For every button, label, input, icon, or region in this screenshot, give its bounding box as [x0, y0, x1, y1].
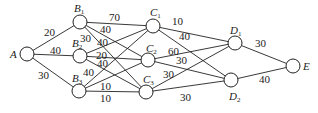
- node-e: [286, 59, 300, 73]
- edges-layer: [27, 22, 293, 92]
- node-b2: [73, 49, 87, 63]
- edge-weight-label: 40: [50, 44, 62, 56]
- nodes-layer: [20, 15, 300, 99]
- node-label-d1: D1: [229, 24, 242, 38]
- node-label-d2: D2: [228, 90, 241, 104]
- node-d1: [228, 36, 242, 50]
- edge-weight-label: 40: [97, 57, 109, 69]
- edge-c3-d1: [146, 43, 235, 92]
- node-label-c2: C2: [146, 42, 157, 56]
- edge-weight-label: 30: [38, 69, 50, 81]
- edge-weight-label: 10: [100, 80, 112, 92]
- edge-weight-label: 10: [100, 92, 112, 104]
- edge-b2-c2: [80, 56, 148, 60]
- edge-weight-label: 40: [179, 30, 191, 42]
- edge-weight-label: 70: [109, 11, 121, 23]
- edge-weight-label: 40: [83, 66, 95, 78]
- node-d2: [224, 73, 238, 87]
- node-label-b3: B3: [72, 72, 83, 86]
- edge-c2-d1: [148, 43, 235, 60]
- node-a: [20, 47, 34, 61]
- node-b3: [72, 84, 86, 98]
- edge-weight-label: 30: [176, 54, 188, 66]
- weighted-graph-diagram: 2040307040304020404010101040603030303040…: [0, 0, 318, 113]
- edge-weight-label: 40: [97, 36, 109, 48]
- edge-weight-label: 10: [172, 15, 184, 27]
- edge-weight-label: 30: [255, 37, 267, 49]
- edge-weight-label: 30: [163, 68, 175, 80]
- edge-weight-label: 40: [259, 73, 271, 85]
- node-label-a: A: [9, 48, 17, 60]
- edge-weight-label: 40: [100, 23, 112, 35]
- node-label-e: E: [302, 60, 310, 72]
- node-label-c3: C3: [143, 73, 154, 87]
- edge-weight-label: 20: [44, 26, 56, 38]
- node-c3: [139, 85, 153, 99]
- node-label-c1: C1: [150, 6, 161, 20]
- edge-b3-c3: [79, 91, 146, 92]
- node-b1: [73, 15, 87, 29]
- node-c1: [146, 19, 160, 33]
- edge-weight-label: 30: [180, 91, 192, 103]
- node-label-b1: B1: [74, 2, 85, 16]
- edge-c2-d2: [148, 60, 231, 80]
